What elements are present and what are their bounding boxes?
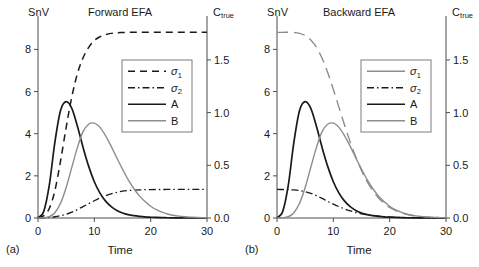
legend-label: B — [171, 115, 178, 127]
figure-root: SnV Ctrue Forward EFA Time (a) 024680.00… — [0, 0, 479, 267]
y-tick-label: 0 — [25, 212, 31, 224]
legend-label: B — [410, 115, 417, 127]
y2-tick-label: 1.0 — [453, 107, 468, 119]
y-tick-label: 4 — [264, 128, 270, 140]
series-line-B — [277, 123, 446, 218]
x-tick-label: 10 — [88, 225, 100, 237]
x-tick-label: 20 — [384, 225, 396, 237]
y-tick-label: 8 — [25, 43, 31, 55]
y2-tick-label: 1.0 — [214, 107, 229, 119]
x-tick-label: 20 — [145, 225, 157, 237]
panel-forward-efa: SnV Ctrue Forward EFA Time (a) 024680.00… — [0, 0, 240, 267]
panel-backward-efa: SnV Ctrue Backward EFA Time (b) 024680.0… — [239, 0, 479, 267]
y2-tick-label: 1.5 — [453, 54, 468, 66]
y-tick-label: 6 — [264, 86, 270, 98]
x-tick-label: 0 — [274, 225, 280, 237]
y2-tick-label: 0.5 — [214, 159, 229, 171]
legend-label: A — [171, 98, 179, 110]
y-tick-label: 2 — [264, 170, 270, 182]
y-tick-label: 2 — [25, 170, 31, 182]
x-tick-label: 30 — [201, 225, 213, 237]
y-tick-label: 6 — [25, 86, 31, 98]
y2-tick-label: 0.5 — [453, 159, 468, 171]
y2-tick-label: 0.0 — [453, 212, 468, 224]
x-tick-label: 0 — [35, 225, 41, 237]
plot-svg-b: 024680.00.51.01.50102030σ1σ2AB — [239, 0, 479, 267]
y-tick-label: 8 — [264, 43, 270, 55]
plot-svg-a: 024680.00.51.01.50102030σ1σ2AB — [0, 0, 240, 267]
x-tick-label: 30 — [440, 225, 452, 237]
x-tick-label: 10 — [327, 225, 339, 237]
y-tick-label: 0 — [264, 212, 270, 224]
legend-label: A — [410, 98, 418, 110]
series-line-B — [38, 123, 207, 218]
y-tick-label: 4 — [25, 128, 31, 140]
y2-tick-label: 1.5 — [214, 54, 229, 66]
y2-tick-label: 0.0 — [214, 212, 229, 224]
